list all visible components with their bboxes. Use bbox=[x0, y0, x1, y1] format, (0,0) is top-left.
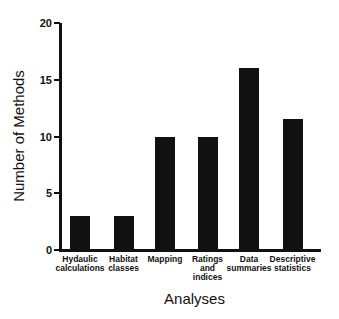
bar bbox=[239, 68, 259, 250]
x-tick-label: Data summaries bbox=[227, 255, 272, 273]
y-tick bbox=[54, 192, 60, 194]
x-tick-label: Mapping bbox=[148, 255, 183, 264]
bar bbox=[114, 216, 134, 250]
y-tick bbox=[54, 79, 60, 81]
y-tick bbox=[54, 136, 60, 138]
x-tick-label: Ratings and indices bbox=[192, 255, 223, 282]
y-tick-label: 15 bbox=[40, 74, 52, 86]
y-tick bbox=[54, 22, 60, 24]
y-tick-label: 10 bbox=[40, 131, 52, 143]
bar bbox=[155, 137, 175, 251]
x-tick-label: Hydaulic calculations bbox=[55, 255, 104, 273]
bar bbox=[198, 137, 218, 251]
y-axis-label: Number of Methods bbox=[10, 70, 27, 202]
y-tick-label: 5 bbox=[46, 187, 52, 199]
y-tick bbox=[54, 249, 60, 251]
bar bbox=[70, 216, 90, 250]
x-tick-label: Habitat classes bbox=[108, 255, 139, 273]
x-axis-label: Analyses bbox=[0, 290, 339, 307]
bar bbox=[283, 119, 303, 250]
y-tick-label: 0 bbox=[46, 244, 52, 256]
x-tick-label: Descriptive statistics bbox=[270, 255, 316, 273]
bar-chart: Number of Methods 05101520 Hydaulic calc… bbox=[0, 0, 339, 319]
y-tick-label: 20 bbox=[40, 17, 52, 29]
